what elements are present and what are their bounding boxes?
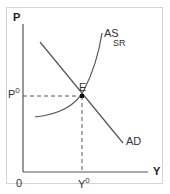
output-equilibrium-label: Y0	[78, 179, 90, 190]
price-label-sup: 0	[15, 86, 19, 95]
y-axis-label: P	[13, 12, 20, 23]
equilibrium-point	[80, 94, 84, 98]
ad-label: AD	[126, 136, 141, 147]
as-sub-label: SR	[113, 39, 126, 48]
diagram-canvas	[0, 0, 170, 194]
equilibrium-label: E	[79, 82, 86, 93]
x-axis-label: Y	[153, 166, 160, 177]
output-label-sup: 0	[85, 176, 89, 185]
origin-label: 0	[16, 178, 22, 189]
price-equilibrium-label: P0	[8, 89, 20, 100]
